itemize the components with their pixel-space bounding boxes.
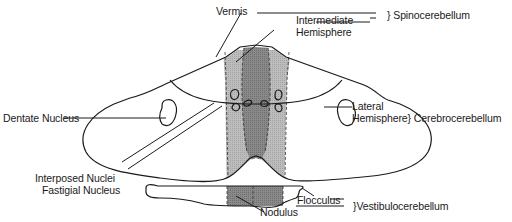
label-nodulus: Nodulus — [260, 206, 298, 218]
nodulus-zone-right — [252, 186, 283, 206]
label-spinocerebellum: } Spinocerebellum — [387, 9, 470, 21]
label-fastigial-nucleus: Fastigial Nucleus — [42, 184, 120, 196]
dentate-nucleus-left — [160, 100, 177, 126]
label-interposed-nuclei: Interposed Nuclei — [35, 172, 115, 184]
flocculonodular-lobe — [146, 185, 303, 208]
label-lateral: Lateral — [352, 100, 383, 112]
label-flocculus: Flocculus — [297, 194, 340, 206]
label-intermediate-hemisphere: Hemisphere — [296, 26, 352, 38]
label-intermediate: Intermediate — [296, 14, 353, 26]
label-vestibulocerebellum: }Vestibulocerebellum — [353, 200, 448, 212]
label-dentate-nucleus: Dentate Nucleus — [3, 112, 79, 124]
label-lateral-hemisphere: Hemisphere} Cerebrocerebellum — [352, 112, 501, 124]
label-vermis: Vermis — [216, 5, 248, 17]
